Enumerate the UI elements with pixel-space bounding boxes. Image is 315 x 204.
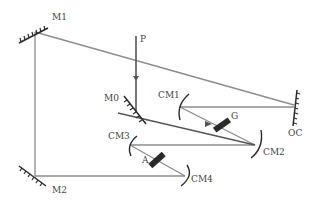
label-cm1: CM1 [158,90,180,100]
diagram-canvas: M1 M2 M0 P CM1 CM2 CM3 CM4 OC G A [0,0,315,204]
curved-mirror-cm3 [129,136,137,156]
laser-cavity-diagram: M1 M2 M0 P CM1 CM2 CM3 CM4 OC G A [0,0,315,204]
label-cm2: CM2 [263,147,285,157]
label-cm3: CM3 [108,131,130,141]
label-m2: M2 [52,185,67,195]
label-p: P [140,34,146,44]
output-coupler-oc [293,90,300,126]
label-a: A [141,155,149,165]
label-oc: OC [288,128,302,138]
curved-mirrors [129,94,261,186]
label-m0: M0 [104,93,119,103]
label-g: G [231,111,238,121]
arrow-down-icon [133,76,139,81]
absorber-a [148,152,165,169]
label-m1: M1 [52,12,67,22]
label-cm4: CM4 [191,174,213,184]
mirror-m0 [124,96,146,124]
pump-beam [133,36,212,127]
